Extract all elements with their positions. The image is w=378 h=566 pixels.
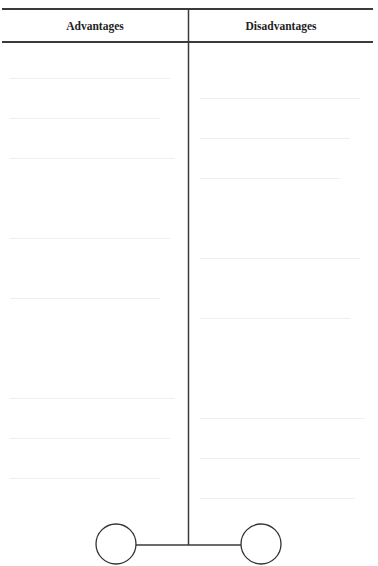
right-circle xyxy=(241,524,281,564)
left-circle xyxy=(96,524,136,564)
header-bottom-rule xyxy=(2,41,373,43)
balance-diagram xyxy=(0,0,378,566)
column-header-advantages: Advantages xyxy=(2,16,188,36)
cropped-caption-text xyxy=(8,0,310,2)
column-header-disadvantages: Disadvantages xyxy=(189,16,373,36)
table-top-rule xyxy=(2,8,373,10)
